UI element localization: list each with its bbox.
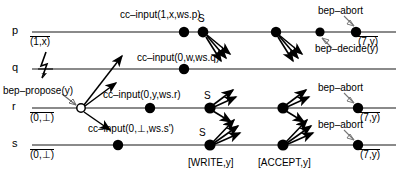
dot-bep-abort-p — [315, 27, 324, 36]
final-state-s: (7,y) — [360, 149, 380, 160]
send-arrows-s-write — [213, 120, 240, 144]
initial-state-p: (1,x) — [30, 36, 50, 47]
phase-label-accept: [ACCEPT,y] — [258, 158, 311, 168]
event-label-cc-input-s: cc–input(0,⊥,ws.s') — [88, 124, 174, 134]
event-label-cc-input-r: cc–input(0,y,ws.r) — [103, 90, 181, 100]
process-label-p: p — [12, 25, 18, 36]
timeline-diagram: p q r s (1,x) (0,⊥) (0,⊥) (7,y) (7,y) (7… — [0, 0, 404, 173]
event-dots-q — [179, 64, 189, 74]
bep-propose-origin-marker — [77, 104, 85, 112]
event-label-bep-abort-s: bep–abort — [318, 120, 363, 130]
initial-state-r: (0,⊥) — [30, 112, 54, 123]
crash-lightning-icon — [38, 52, 53, 79]
event-label-bep-decide: bep–decide(y) — [315, 44, 378, 54]
event-label-cc-input-q: cc–input(0,w,ws.q) — [137, 53, 219, 63]
process-label-s: s — [12, 138, 18, 149]
event-label-cc-input-p: cc–input(1,x,ws.p) — [120, 10, 201, 20]
phase-label-write: [WRITE,y] — [188, 158, 234, 168]
initial-state-s: (0,⊥) — [30, 149, 54, 160]
send-marker-label-s: S — [199, 128, 206, 138]
dot-cc-input-r — [145, 103, 155, 113]
send-arrows-s-accept — [286, 120, 313, 144]
process-label-r: r — [12, 101, 16, 112]
pointer-bep-abort-r — [344, 93, 354, 103]
send-arrows-r-accept — [286, 90, 309, 122]
send-marker-label-r: S — [204, 91, 211, 101]
dot-cc-input-q — [179, 64, 189, 74]
dot-cc-input-s — [113, 140, 123, 150]
event-label-bep-propose: bep–propose(y) — [3, 86, 73, 96]
send-arrows-p — [278, 35, 302, 61]
pointer-bep-abort-p — [344, 16, 354, 26]
pointer-bep-abort-s — [344, 130, 354, 140]
send-arrows-r-write — [213, 90, 236, 122]
dot-cc-input-p — [179, 27, 189, 37]
dot-S-p — [198, 27, 209, 38]
event-label-bep-abort-p: bep–abort — [318, 6, 363, 16]
process-label-q: q — [12, 62, 18, 73]
send-marker-label-p: S — [198, 14, 205, 24]
event-label-bep-abort-r: bep–abort — [318, 83, 363, 93]
